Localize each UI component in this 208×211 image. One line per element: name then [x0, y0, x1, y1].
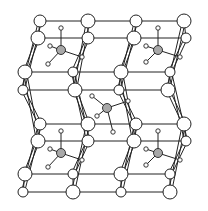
lattice-atom [18, 187, 28, 197]
crystal-structure-diagram [0, 0, 208, 211]
lattice-atom [165, 169, 175, 179]
lattice-atom [181, 136, 191, 146]
lattice-atom [127, 31, 141, 45]
central-atom [154, 149, 163, 158]
ligand-atom [59, 129, 63, 133]
lattice-atom [68, 83, 82, 97]
ligand-atom [48, 44, 52, 48]
lattice-atom [18, 85, 28, 95]
lattice-drawing [0, 0, 208, 211]
lattice-atom [82, 32, 94, 44]
lattice-atom [34, 15, 46, 27]
bond-line [120, 72, 133, 141]
central-atom [103, 104, 112, 113]
ligand-atom [90, 94, 94, 98]
lattice-atom [66, 185, 80, 199]
ligand-atom [144, 60, 148, 64]
bond-line [26, 72, 39, 141]
lattice-atom [181, 33, 191, 43]
lattice-atom [81, 117, 95, 131]
lattice-atom [177, 14, 191, 28]
lattice-atom [114, 167, 128, 181]
lattice-atom [68, 169, 78, 179]
ligand-atom [111, 130, 115, 134]
bond-line [24, 72, 37, 141]
ligand-atom [178, 55, 182, 59]
molecules [46, 26, 182, 169]
lattice-atom [34, 118, 46, 130]
ligand-atom [126, 99, 130, 103]
lattice-atom [130, 15, 142, 27]
central-atom [57, 149, 66, 158]
ligand-atom [48, 147, 52, 151]
lattice-atom [18, 65, 32, 79]
lattice-atom [130, 118, 142, 130]
lattice-atom [31, 31, 45, 45]
lattice-atom [18, 167, 32, 181]
ligand-atom [144, 147, 148, 151]
ligand-atom [144, 163, 148, 167]
ligand-atom [144, 44, 148, 48]
lattice-atom [161, 83, 175, 97]
ligand-atom [156, 129, 160, 133]
lattice-atom [82, 135, 94, 147]
lattice-atom [114, 85, 124, 95]
lattice-atom [163, 185, 177, 199]
ligand-atom [95, 114, 99, 118]
lattice-atom [165, 67, 175, 77]
ligand-atom [178, 158, 182, 162]
ligand-atom [80, 55, 84, 59]
lattice-atom [31, 134, 45, 148]
ligand-atom [59, 26, 63, 30]
lattice-atom [116, 187, 126, 197]
central-atom [154, 46, 163, 55]
ligand-atom [46, 62, 50, 66]
central-atom [57, 46, 66, 55]
lattice-atom [68, 67, 78, 77]
ligand-atom [156, 26, 160, 30]
lattice-atom [177, 117, 191, 131]
lattice-atom [127, 134, 141, 148]
ligand-atom [46, 165, 50, 169]
lattice-atom [81, 14, 95, 28]
lattice-atom [114, 65, 128, 79]
ligand-atom [80, 158, 84, 162]
